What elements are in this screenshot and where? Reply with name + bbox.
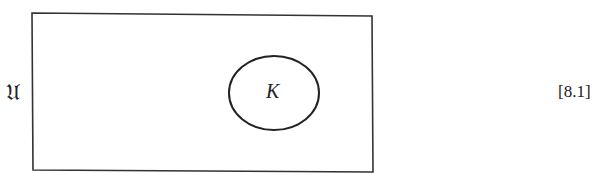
venn-diagram — [0, 0, 607, 174]
equation-number: [8.1] — [558, 82, 591, 102]
set-k-label: K — [266, 80, 279, 103]
universe-label: 𝔘 — [6, 80, 20, 106]
universe-rectangle — [32, 13, 373, 172]
